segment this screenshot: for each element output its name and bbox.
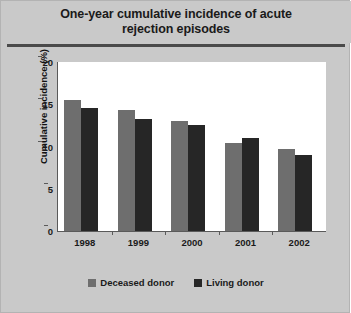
- bar-1998-living-donor[interactable]: [81, 108, 98, 231]
- bar-2001-deceased-donor[interactable]: [225, 143, 242, 231]
- x-tick-mark-2000: [165, 231, 166, 235]
- y-tick-5: 5: [48, 183, 58, 194]
- y-tick-0: 0: [48, 226, 58, 237]
- x-tick-mark-1999: [112, 231, 113, 235]
- y-tick-mark-10: [38, 141, 42, 142]
- x-tick-mark-2001: [219, 231, 220, 235]
- y-tick-label-20: 20: [42, 57, 53, 68]
- bar-1999-deceased-donor[interactable]: [118, 110, 135, 231]
- bar-group-2000: 2000: [165, 62, 219, 231]
- legend-swatch-icon-deceased-donor: [88, 279, 96, 287]
- bar-group-1999: 1999: [112, 62, 166, 231]
- legend-swatch-icon-living-donor: [194, 279, 202, 287]
- bar-2001-living-donor[interactable]: [242, 138, 259, 231]
- y-tick-mark-15: [38, 98, 42, 99]
- bar-2002-deceased-donor[interactable]: [278, 149, 295, 231]
- legend-item-deceased-donor[interactable]: Deceased donor: [88, 277, 174, 288]
- bar-2002-living-donor[interactable]: [295, 155, 312, 231]
- bar-1998-deceased-donor[interactable]: [64, 100, 81, 231]
- bars-layer: 19981999200020012002: [58, 62, 326, 231]
- x-tick-label-1999: 1999: [112, 237, 166, 248]
- page-title: One-year cumulative incidence of acute r…: [42, 7, 310, 37]
- title-divider: [7, 44, 345, 47]
- y-tick-label-10: 10: [42, 141, 53, 152]
- y-tick-10: 10: [42, 141, 58, 152]
- x-tick-label-2000: 2000: [165, 237, 219, 248]
- legend-label-deceased-donor: Deceased donor: [100, 277, 174, 288]
- y-tick-mark-5: [44, 183, 48, 184]
- bar-1999-living-donor[interactable]: [135, 119, 152, 231]
- legend-item-living-donor[interactable]: Living donor: [194, 277, 264, 288]
- plot-region: Cumulative incidence (%) 0 5 10 15 20: [1, 49, 351, 274]
- y-tick-mark-20: [38, 56, 42, 57]
- x-tick-label-1998: 1998: [58, 237, 112, 248]
- y-tick-15: 15: [42, 99, 58, 110]
- x-tick-label-2001: 2001: [219, 237, 273, 248]
- chart-title-line-2: rejection episodes: [122, 22, 230, 36]
- x-tick-label-2002: 2002: [272, 237, 326, 248]
- bar-group-2001: 2001: [219, 62, 273, 231]
- x-tick-mark-2002: [272, 231, 273, 235]
- y-tick-label-5: 5: [48, 183, 53, 194]
- y-tick-label-0: 0: [48, 226, 53, 237]
- plot-area: 0 5 10 15 20 19981999200020012002: [57, 62, 326, 232]
- chart-legend: Deceased donor Living donor: [1, 277, 351, 288]
- bar-group-1998: 1998: [58, 62, 112, 231]
- chart-title-band: One-year cumulative incidence of acute r…: [1, 1, 351, 43]
- bar-group-2002: 2002: [272, 62, 326, 231]
- bar-2000-living-donor[interactable]: [188, 125, 205, 231]
- bar-2000-deceased-donor[interactable]: [171, 121, 188, 231]
- legend-label-living-donor: Living donor: [206, 277, 264, 288]
- y-tick-20: 20: [42, 57, 58, 68]
- chart-title-line-1: One-year cumulative incidence of acute: [60, 7, 292, 21]
- y-tick-label-15: 15: [42, 99, 53, 110]
- y-tick-mark-0: [44, 225, 48, 226]
